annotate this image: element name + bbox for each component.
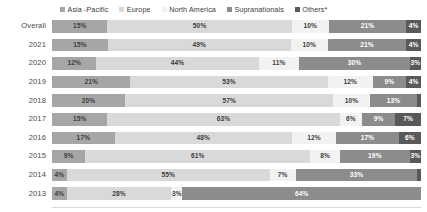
legend-item[interactable]: North America	[162, 5, 216, 14]
stacked-bar: 15%63%6%9%7%	[52, 113, 421, 126]
bar-segment: 4%	[406, 76, 421, 89]
bar-segment-value-label: 4%	[55, 190, 65, 198]
bar-segment-value-label: 17%	[77, 134, 91, 142]
bar-segment-value-label: 17%	[361, 134, 375, 142]
bar-segment: 1%	[417, 169, 421, 182]
bar-segment: 12%	[52, 57, 96, 70]
bar-segment-value-label: 7%	[403, 115, 413, 123]
bar-segment: 15%	[52, 39, 108, 52]
bar-segment: 8%	[310, 150, 340, 163]
legend-item[interactable]: Europe	[119, 5, 150, 14]
stacked-bar: 20%57%10%13%1%	[52, 94, 421, 107]
bar-segment-value-label: 3%	[411, 152, 421, 160]
bar-segment-value-label: 6%	[405, 134, 415, 142]
stacked-bar: 9%61%8%19%3%	[52, 150, 421, 163]
chart-bar-row: 20144%55%7%33%1%	[0, 166, 427, 185]
stacked-bar-chart: Asia -PacificEuropeNorth AmericaSupranat…	[0, 0, 427, 212]
bar-segment-value-label: 33%	[350, 171, 364, 179]
legend-item-label: Asia -Pacific	[68, 5, 109, 14]
bar-segment: 11%	[259, 57, 300, 70]
bar-segment: 9%	[52, 150, 85, 163]
bar-segment-value-label: 21%	[84, 78, 98, 86]
bar-segment: 48%	[115, 132, 292, 145]
bar-segment: 57%	[125, 94, 333, 107]
bar-segment-value-label: 15%	[73, 22, 87, 30]
bar-segment: 4%	[52, 187, 67, 200]
y-axis-tick-label: Overall	[0, 21, 52, 31]
bar-segment: 7%	[395, 113, 421, 126]
bar-segment-value-label: 50%	[193, 22, 207, 30]
stacked-bar: 17%48%12%17%6%	[52, 132, 421, 145]
bar-segment-value-label: 13%	[387, 97, 401, 105]
y-axis-tick-label: 2018	[0, 96, 52, 106]
legend-item[interactable]: Supranationals	[227, 5, 284, 14]
bar-segment: 44%	[96, 57, 258, 70]
bar-segment-value-label: 3%	[411, 59, 421, 67]
bar-segment-value-label: 10%	[302, 41, 316, 49]
y-axis-tick-label: 2020	[0, 58, 52, 68]
bar-segment-value-label: 7%	[278, 171, 288, 179]
bar-segment: 55%	[67, 169, 270, 182]
bar-segment: 4%	[406, 20, 421, 33]
chart-bar-row: 201715%63%6%9%7%	[0, 110, 427, 129]
chart-bar-row: 201820%57%10%13%1%	[0, 91, 427, 110]
legend-item[interactable]: Asia -Pacific	[60, 5, 108, 14]
y-axis-tick-label: 2019	[0, 77, 52, 87]
y-axis-tick-label: 2021	[0, 40, 52, 50]
bar-segment: 33%	[296, 169, 418, 182]
bar-segment-value-label: 28%	[112, 190, 126, 198]
stacked-bar: 4%28%3%64%	[52, 187, 421, 200]
chart-bar-row: 201921%53%12%9%4%	[0, 73, 427, 92]
y-axis-tick-label: 2014	[0, 170, 52, 180]
bar-segment: 12%	[328, 76, 373, 89]
bar-segment: 50%	[107, 20, 292, 33]
bar-segment-value-label: 21%	[361, 22, 375, 30]
bar-segment: 63%	[107, 113, 339, 126]
bar-segment-value-label: 9%	[374, 115, 384, 123]
bar-segment: 17%	[52, 132, 115, 145]
bar-segment-value-label: 19%	[368, 152, 382, 160]
bar-segment-value-label: 49%	[192, 41, 206, 49]
bar-segment: 15%	[52, 20, 107, 33]
bar-segment: 7%	[270, 169, 296, 182]
chart-bar-row: 20134%28%3%64%	[0, 184, 427, 203]
bar-segment-value-label: 6%	[346, 115, 356, 123]
bar-segment: 21%	[52, 76, 130, 89]
bar-segment-value-label: 57%	[222, 97, 236, 105]
bar-segment: 10%	[291, 39, 328, 52]
bar-segment-value-label: 12%	[343, 78, 357, 86]
bar-segment: 9%	[373, 76, 407, 89]
bar-segment-value-label: 55%	[161, 171, 175, 179]
bar-segment-value-label: 15%	[73, 41, 87, 49]
y-axis-tick-label: 2015	[0, 151, 52, 161]
bar-segment-value-label: 48%	[197, 134, 211, 142]
bar-segment-value-label: 8%	[320, 152, 330, 160]
bar-segment-value-label: 4%	[409, 78, 419, 86]
bar-segment: 28%	[67, 187, 171, 200]
bar-segment-value-label: 9%	[64, 152, 74, 160]
bar-segment: 53%	[130, 76, 328, 89]
bar-segment: 61%	[85, 150, 310, 163]
bar-segment: 21%	[329, 20, 406, 33]
legend-swatch-icon	[227, 7, 232, 12]
bar-segment-value-label: 4%	[409, 41, 419, 49]
bar-segment-value-label: 9%	[384, 78, 394, 86]
bar-segment-value-label: 20%	[82, 97, 96, 105]
bar-segment: 19%	[340, 150, 410, 163]
legend-item[interactable]: Others*	[295, 5, 328, 14]
bar-segment: 17%	[336, 132, 399, 145]
bar-segment: 10%	[292, 20, 329, 33]
bar-segment: 21%	[328, 39, 406, 52]
y-axis-tick-label: 2016	[0, 133, 52, 143]
bar-segment-value-label: 10%	[345, 97, 359, 105]
chart-baseline-rule	[52, 207, 421, 208]
stacked-bar: 12%44%11%30%3%	[52, 57, 421, 70]
bar-segment: 4%	[406, 39, 421, 52]
bar-segment-value-label: 3%	[172, 190, 182, 198]
chart-legend: Asia -PacificEuropeNorth AmericaSupranat…	[60, 2, 420, 16]
stacked-bar: 4%55%7%33%1%	[52, 169, 421, 182]
bar-segment: 13%	[370, 94, 417, 107]
bar-segment-value-label: 12%	[307, 134, 321, 142]
bar-segment: 10%	[333, 94, 370, 107]
bar-segment-value-label: 63%	[217, 115, 231, 123]
